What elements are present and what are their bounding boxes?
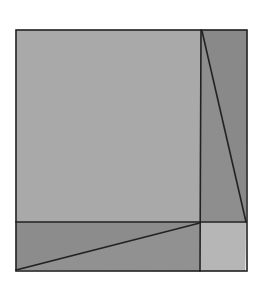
small-square	[200, 222, 246, 271]
dissection-diagram	[0, 0, 267, 287]
large-square	[16, 30, 201, 222]
vertical-divider	[200, 30, 201, 271]
regions-group	[16, 30, 247, 271]
